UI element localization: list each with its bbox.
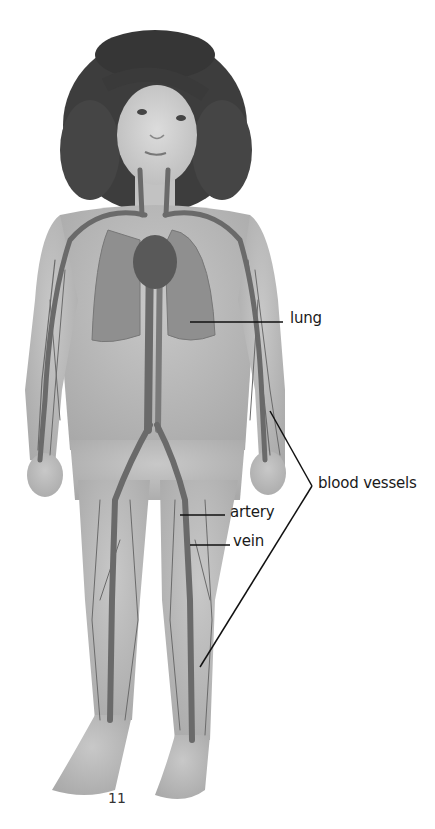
heart (133, 235, 177, 289)
circulatory-system-illustration (0, 0, 435, 829)
vein-label: vein (233, 532, 264, 550)
lung-label: lung (290, 309, 322, 327)
blood-vessels-label: blood vessels (318, 474, 417, 492)
artery-label: artery (230, 503, 274, 521)
page-number: 11 (108, 790, 126, 806)
